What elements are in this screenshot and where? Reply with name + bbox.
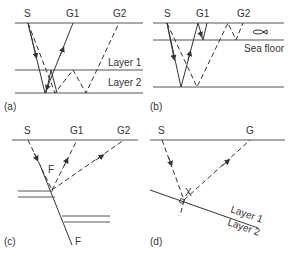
incident-ray-normal <box>162 140 184 216</box>
panel-b: S G1 G2 Sea floor (b) <box>150 8 285 112</box>
fault-label-bottom: F <box>75 236 81 247</box>
source-label: S <box>24 125 31 136</box>
peg-leg-ray <box>46 70 57 93</box>
source-label: S <box>164 8 171 19</box>
fault-line <box>40 165 72 245</box>
primary-reflection-ray <box>28 23 73 93</box>
up-arrow-g2 <box>96 156 102 160</box>
panel-c: S G1 G2 F F (c) <box>4 125 138 247</box>
reflection-point-label: X <box>185 187 192 198</box>
reflected-ray <box>184 140 250 200</box>
receiver-g1-label: G1 <box>70 125 84 136</box>
up-arrow-g1 <box>64 160 67 166</box>
layer-1-label: Layer 1 <box>108 57 142 68</box>
sea-floor-label: Sea floor <box>244 43 285 54</box>
seismic-ray-path-diagram: S G1 G2 Layer 1 Layer 2 (a) S G1 G2 Sea … <box>0 0 293 254</box>
caption-a: (a) <box>4 101 16 112</box>
receiver-g2-label: G2 <box>237 8 251 19</box>
fish-icon <box>253 30 267 34</box>
fault-label-top: F <box>48 164 54 175</box>
layer-2-label: Layer 2 <box>108 77 142 88</box>
water-reverberation-ray <box>198 23 207 40</box>
receiver-g2-label: G2 <box>117 125 131 136</box>
up-arrow <box>222 161 228 166</box>
receiver-g1-label: G1 <box>66 8 80 19</box>
multiple-reflection-ray <box>28 23 119 93</box>
up-arrow <box>60 49 63 56</box>
source-label: S <box>158 125 165 136</box>
caption-b: (b) <box>150 101 162 112</box>
diagram-canvas: S G1 G2 Layer 1 Layer 2 (a) S G1 G2 Sea … <box>0 0 293 254</box>
receiver-g2-label: G2 <box>113 8 127 19</box>
panel-a: S G1 G2 Layer 1 Layer 2 (a) <box>4 8 143 112</box>
caption-c: (c) <box>4 236 16 247</box>
diffracted-ray-g2 <box>52 140 124 190</box>
down-arrow <box>34 153 37 159</box>
source-label: S <box>24 8 31 19</box>
receiver-g-label: G <box>246 125 254 136</box>
caption-d: (d) <box>150 236 162 247</box>
receiver-g1-label: G1 <box>196 8 210 19</box>
up-arrow <box>188 53 190 60</box>
panel-d: S G X Layer 1 Layer 2 (d) <box>150 125 285 247</box>
